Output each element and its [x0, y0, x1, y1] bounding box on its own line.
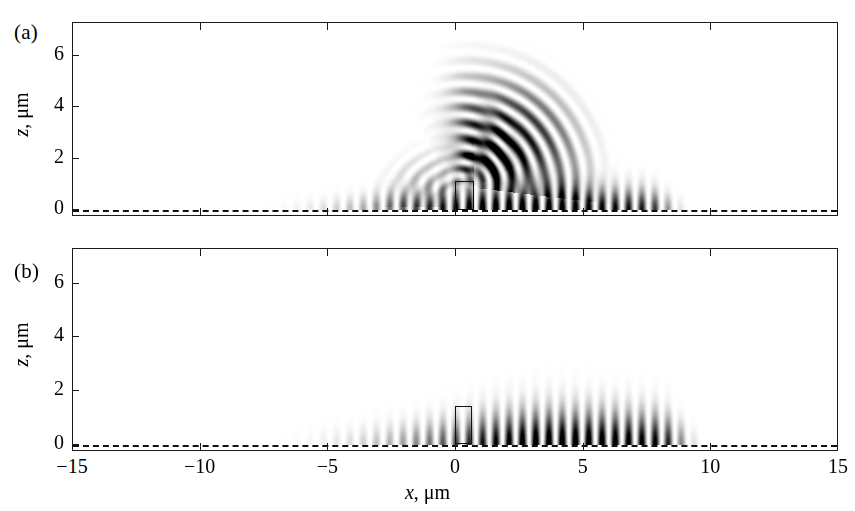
panel-b-x-tick-bottom	[455, 443, 456, 450]
x-tick-label: 0	[425, 455, 485, 478]
panel-a-x-tick-bottom	[200, 208, 201, 215]
panel-a-y-tick	[72, 106, 79, 107]
panel-b-y-tick	[72, 336, 79, 337]
panel-b-y-tick	[72, 283, 79, 284]
x-tick-label: −5	[297, 455, 357, 478]
panel-a-y-tick-label: 2	[30, 145, 64, 168]
panel-a-label: (a)	[14, 20, 38, 45]
panel-a-y-tick	[72, 158, 79, 159]
panel-b-x-tick-top	[583, 249, 584, 256]
panel-a-x-tick-top	[455, 23, 456, 30]
panel-a-x-tick-bottom	[710, 208, 711, 215]
panel-a-y-tick-label: 4	[30, 93, 64, 116]
panel-a-x-tick-top	[327, 23, 328, 30]
panel-b-y-tick	[72, 390, 79, 391]
panel-b-x-tick-top	[455, 249, 456, 256]
panel-a-y-tick-label: 0	[30, 196, 64, 219]
panel-a-x-tick-top	[710, 23, 711, 30]
panel-a-x-tick-bottom	[327, 208, 328, 215]
x-axis-label: x, μm	[0, 481, 855, 504]
panel-b-x-tick-bottom	[710, 443, 711, 450]
panel-a-y-tick-label: 6	[30, 42, 64, 65]
panel-b-y-tick-label: 6	[30, 270, 64, 293]
panel-a-y-tick	[72, 55, 79, 56]
panel-b-y-tick	[72, 444, 79, 445]
panel-b-y-axis-label: z, μm	[10, 300, 33, 390]
panel-a-x-tick-top	[583, 23, 584, 30]
x-tick-label: 15	[808, 455, 855, 478]
panel-b-x-tick-top	[710, 249, 711, 256]
panel-b-x-tick-bottom	[583, 443, 584, 450]
panel-b-x-tick-top	[200, 249, 201, 256]
panel-a-y-axis-label: z, μm	[10, 70, 33, 160]
x-tick-label: 10	[680, 455, 740, 478]
panel-b-roi-box	[455, 406, 472, 444]
panel-b-x-tick-bottom	[327, 443, 328, 450]
panel-b-x-tick-bottom	[200, 443, 201, 450]
panel-a-x-tick-bottom	[583, 208, 584, 215]
panel-b	[72, 248, 838, 451]
x-tick-label: −10	[170, 455, 230, 478]
x-tick-label: 5	[553, 455, 613, 478]
panel-b-y-tick-label: 0	[30, 431, 64, 454]
panel-a-plot-area	[73, 23, 837, 215]
panel-a-x-tick-top	[200, 23, 201, 30]
panel-b-plot-area	[73, 249, 837, 450]
panel-a-roi-box	[455, 181, 475, 210]
x-axis-label-var: x	[405, 481, 414, 503]
panel-a-y-tick	[72, 209, 79, 210]
x-axis-label-unit: , μm	[414, 481, 450, 503]
panel-a	[72, 22, 838, 216]
panel-b-y-tick-label: 2	[30, 377, 64, 400]
panel-b-x-tick-top	[327, 249, 328, 256]
panel-a-x-tick-bottom	[455, 208, 456, 215]
panel-b-y-tick-label: 4	[30, 323, 64, 346]
figure-root: (a) (b) 0246z, μm0246z, μm−15−10−5051015…	[0, 0, 855, 511]
x-tick-label: −15	[42, 455, 102, 478]
